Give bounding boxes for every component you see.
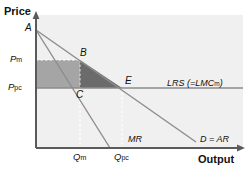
price-tick-pm-sub: m: [16, 56, 22, 63]
lrs-curve-label: LRS (=LMCm): [167, 79, 223, 88]
demand-curve-label: D = AR: [200, 135, 229, 144]
quantity-tick-qpc-sub: pc: [121, 154, 128, 161]
quantity-tick-qm: Qm: [73, 152, 86, 162]
point-label-e: E: [125, 76, 132, 86]
lrs-label-close: ): [220, 78, 223, 88]
point-label-c: C: [76, 90, 83, 100]
quantity-tick-qpc: Qpc: [114, 152, 129, 162]
x-axis-label: Output: [198, 154, 234, 165]
price-tick-ppc: Ppc: [8, 82, 22, 92]
lrs-label-base: LRS (=LMC: [167, 78, 214, 88]
point-label-b: B: [80, 48, 87, 58]
point-label-a: A: [25, 23, 32, 33]
price-tick-pm: Pm: [10, 54, 22, 64]
quantity-tick-qm-sub: m: [80, 154, 86, 161]
price-tick-ppc-sub: pc: [14, 84, 21, 91]
y-axis-label: Price: [4, 6, 31, 17]
mr-curve-label: MR: [128, 135, 142, 144]
